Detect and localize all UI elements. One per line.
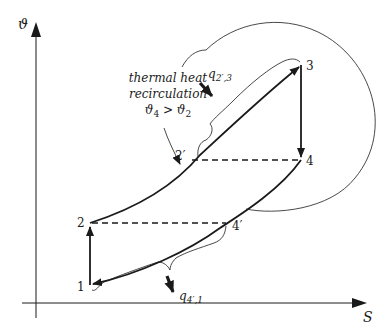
point-label-4: 4 bbox=[306, 155, 314, 167]
y-axis bbox=[31, 22, 41, 318]
point-label-2prime: 2′ bbox=[175, 150, 185, 162]
path-4-1 bbox=[93, 160, 301, 284]
brace-4prime-1 bbox=[92, 226, 226, 290]
point-label-1: 1 bbox=[77, 281, 85, 293]
point-label-2: 2 bbox=[77, 217, 85, 229]
point-label-3: 3 bbox=[306, 60, 314, 72]
annotation-line-2: recirculation bbox=[118, 86, 218, 102]
x-axis-label: S bbox=[363, 310, 373, 324]
theta-2-subscript: 2 bbox=[185, 109, 191, 119]
y-axis-arrow-icon bbox=[31, 22, 41, 37]
heat-out-arrow-icon bbox=[167, 276, 173, 292]
annotation-line-3: ϑ4 > ϑ2 bbox=[118, 102, 218, 122]
heat-out-label: q4′,1 bbox=[179, 290, 203, 305]
ts-diagram bbox=[0, 0, 389, 333]
x-axis-arrow-icon bbox=[352, 298, 367, 308]
recirculation-annotation: thermal heat recirculation ϑ4 > ϑ2 bbox=[118, 70, 218, 122]
annotation-connector-top bbox=[182, 50, 206, 67]
heat-in-subscript: 2′,3 bbox=[216, 73, 232, 83]
heat-out-subscript: 4′,1 bbox=[187, 295, 203, 305]
point-label-4prime: 4′ bbox=[232, 220, 242, 232]
recirculation-circle bbox=[206, 22, 375, 211]
heat-out-symbol: q bbox=[179, 289, 187, 303]
y-axis-label: ϑ bbox=[18, 17, 28, 31]
greater-than-operator: > bbox=[159, 103, 177, 117]
annotation-line-1: thermal heat bbox=[118, 70, 218, 86]
